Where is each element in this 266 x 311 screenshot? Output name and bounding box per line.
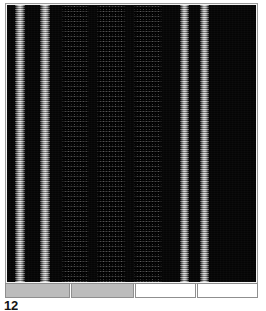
lane-legend-segment-3[interactable] — [135, 283, 195, 298]
lane-image-panel — [7, 5, 256, 282]
figure-root: 12 — [0, 0, 266, 311]
lane-band-4 — [97, 5, 126, 282]
lane-band-2 — [40, 5, 50, 282]
lane-band-3 — [62, 5, 90, 282]
figure-caption: 12 — [4, 299, 18, 311]
lane-legend-segment-2[interactable] — [71, 283, 134, 298]
lane-band-5 — [134, 5, 162, 282]
lane-legend-bar — [5, 283, 258, 298]
lane-image-frame — [5, 3, 258, 284]
lane-band-7 — [200, 5, 209, 282]
lane-legend-segment-1[interactable] — [5, 283, 70, 298]
lane-legend-segment-4[interactable] — [197, 283, 258, 298]
lane-band-1 — [15, 5, 25, 282]
lane-band-6 — [180, 5, 189, 282]
